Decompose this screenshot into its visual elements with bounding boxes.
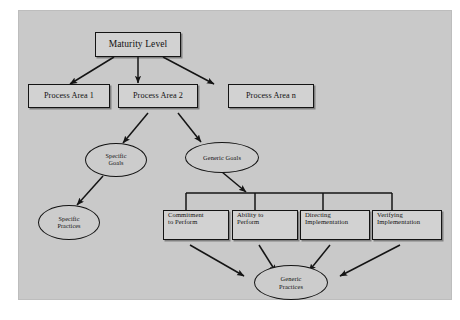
specific-goals-line-2: Goals bbox=[109, 160, 124, 167]
generic-practices-line-1: Generic bbox=[281, 275, 302, 282]
edge-maturity-to-arean bbox=[163, 57, 214, 84]
node-process-area-n[interactable]: Process Area n bbox=[228, 84, 314, 108]
edge-maturity-to-area1 bbox=[70, 57, 114, 84]
directing-line-2: Implementation bbox=[305, 218, 348, 225]
commitment-line-2: to Perform bbox=[168, 218, 197, 225]
ability-line-1: Ability to bbox=[237, 211, 263, 218]
commitment-line-1: Commitment bbox=[168, 211, 204, 218]
specific-practices-line-2: Practices bbox=[57, 223, 80, 230]
edge-specific-goals-to-specific-practices bbox=[77, 176, 103, 205]
node-verifying-implementation[interactable]: Verifying Implementation bbox=[372, 210, 442, 240]
node-process-area-1[interactable]: Process Area 1 bbox=[28, 84, 110, 108]
edge-area2-to-specific-goals bbox=[123, 113, 148, 143]
diagram-page: Maturity Level Process Area 1 Process Ar… bbox=[0, 0, 460, 320]
verifying-line-2: Implementation bbox=[377, 218, 420, 225]
node-specific-goals[interactable]: Specific Goals bbox=[85, 143, 147, 177]
node-generic-goals[interactable]: Generic Goals bbox=[185, 142, 259, 173]
directing-line-1: Directing bbox=[305, 211, 331, 218]
node-maturity-level[interactable]: Maturity Level bbox=[95, 32, 181, 57]
generic-goal-bus bbox=[186, 193, 392, 210]
node-specific-practices[interactable]: Specific Practices bbox=[38, 205, 100, 240]
node-directing-implementation[interactable]: Directing Implementation bbox=[300, 210, 370, 240]
node-ability-to-perform[interactable]: Ability to Perform bbox=[232, 210, 298, 240]
edge-verifying-to-generic-practices bbox=[340, 245, 400, 276]
verifying-line-1: Verifying bbox=[377, 211, 403, 218]
generic-practices-line-2: Practices bbox=[279, 283, 303, 290]
node-commitment-to-perform[interactable]: Commitment to Perform bbox=[163, 210, 229, 240]
edge-area2-to-generic-goals bbox=[178, 113, 201, 142]
edge-directing-to-generic-practices bbox=[309, 245, 330, 271]
node-generic-practices[interactable]: Generic Practices bbox=[254, 265, 328, 300]
edge-generic-goals-to-bus bbox=[222, 172, 246, 192]
node-process-area-2[interactable]: Process Area 2 bbox=[118, 84, 198, 108]
ability-line-2: Perform bbox=[237, 218, 259, 225]
edge-commitment-to-generic-practices bbox=[190, 245, 244, 276]
